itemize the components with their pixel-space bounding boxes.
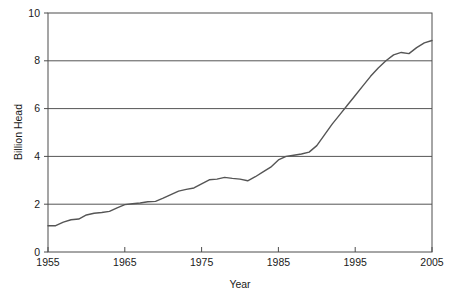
x-tick-label-1995: 1995: [344, 256, 368, 268]
x-tick-label-1975: 1975: [190, 256, 214, 268]
y-axis-tick-labels: 0246810: [28, 7, 40, 258]
chart-container: 0246810 195519651975198519952005 Billion…: [0, 0, 451, 300]
y-tick-label-8: 8: [34, 54, 40, 66]
y-tick-label-2: 2: [34, 198, 40, 210]
x-tick-label-2005: 2005: [420, 256, 444, 268]
x-tick-label-1955: 1955: [36, 256, 60, 268]
x-tick-label-1965: 1965: [113, 256, 137, 268]
y-axis-tick-marks: [44, 13, 48, 252]
plot-background: [48, 13, 432, 252]
y-tick-label-6: 6: [34, 102, 40, 114]
x-tick-label-1985: 1985: [267, 256, 291, 268]
y-axis-title: Billion Head: [12, 104, 24, 160]
x-axis-title: Year: [229, 278, 251, 290]
line-chart: 0246810 195519651975198519952005 Billion…: [0, 0, 451, 300]
y-tick-label-4: 4: [34, 150, 40, 162]
x-axis-tick-labels: 195519651975198519952005: [36, 256, 444, 268]
y-tick-label-10: 10: [28, 7, 40, 19]
